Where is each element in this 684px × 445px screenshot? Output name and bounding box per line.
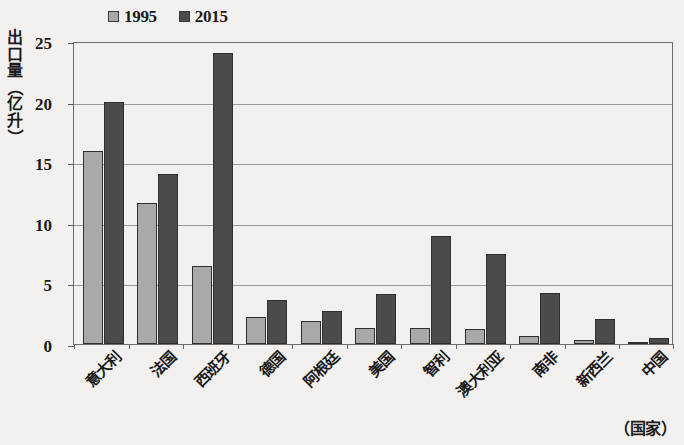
bar-2015 <box>213 53 233 344</box>
bar-1995 <box>355 328 375 344</box>
legend-swatch-2015 <box>179 11 190 22</box>
bar-group <box>565 43 620 344</box>
y-axis-title-char: ） <box>7 124 23 150</box>
bar-2015 <box>540 293 560 344</box>
bar-series-container <box>74 43 672 344</box>
bar-group <box>238 43 293 344</box>
bar-2015 <box>431 236 451 344</box>
bar-2015 <box>376 294 396 344</box>
y-tick-label: 5 <box>12 277 52 294</box>
x-axis-label: 意大利 <box>84 349 125 390</box>
bar-1995 <box>574 340 594 344</box>
bar-2015 <box>104 102 124 344</box>
x-axis-label: 新西兰 <box>574 349 615 390</box>
bar-group <box>129 43 184 344</box>
bar-2015 <box>649 338 669 344</box>
bar-2015 <box>158 174 178 344</box>
legend-entry-1995: 1995 <box>108 8 157 25</box>
x-axis-label: 德国 <box>257 349 288 380</box>
bar-group <box>74 43 129 344</box>
bar-1995 <box>410 328 430 344</box>
bar-1995 <box>137 203 157 344</box>
bar-2015 <box>486 254 506 344</box>
x-axis-title: （国家） <box>614 415 676 439</box>
bar-1995 <box>519 336 539 344</box>
x-axis-label: 中国 <box>639 349 670 380</box>
bar-1995 <box>301 321 321 344</box>
bar-1995 <box>246 317 266 344</box>
y-tick-label: 10 <box>12 216 52 233</box>
bar-group <box>347 43 402 344</box>
bar-2015 <box>267 300 287 344</box>
bar-2015 <box>595 319 615 344</box>
x-tick-mark <box>673 344 674 349</box>
legend-label-1995: 1995 <box>124 8 157 25</box>
bar-1995 <box>465 329 485 344</box>
x-axis-label: 澳大利亚 <box>455 349 507 401</box>
bar-group <box>292 43 347 344</box>
bar-2015 <box>322 311 342 344</box>
bar-group <box>401 43 456 344</box>
plot-area: 0510152025 <box>73 42 673 345</box>
bar-1995 <box>192 266 212 344</box>
x-axis-label: 美国 <box>366 349 397 380</box>
legend-label-2015: 2015 <box>195 8 228 25</box>
y-tick-label: 15 <box>12 156 52 173</box>
bar-group <box>510 43 565 344</box>
legend-swatch-1995 <box>108 11 119 22</box>
x-axis-label: 阿根廷 <box>302 349 343 390</box>
chart-legend: 1995 2015 <box>108 5 228 27</box>
y-tick-label: 25 <box>12 35 52 52</box>
bar-chart-figure: 1995 2015 出口量（亿升） 0510152025 意大利法国西班牙德国阿… <box>0 0 684 445</box>
bar-group <box>619 43 674 344</box>
y-tick-label: 0 <box>12 338 52 355</box>
bar-group <box>456 43 511 344</box>
y-tick-label: 20 <box>12 95 52 112</box>
x-axis-label: 西班牙 <box>193 349 234 390</box>
legend-entry-2015: 2015 <box>179 8 228 25</box>
x-axis-label: 智利 <box>421 349 452 380</box>
x-axis-label: 法国 <box>148 349 179 380</box>
x-axis-label: 南非 <box>530 349 561 380</box>
bar-group <box>183 43 238 344</box>
bar-1995 <box>628 342 648 344</box>
bar-1995 <box>83 151 103 344</box>
x-axis-labels: 意大利法国西班牙德国阿根廷美国智利澳大利亚南非新西兰中国 <box>73 345 673 415</box>
